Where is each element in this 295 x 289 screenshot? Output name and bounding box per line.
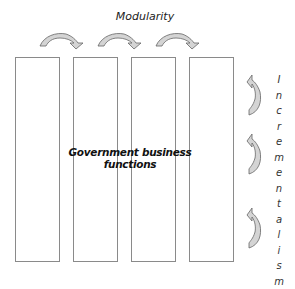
curved-arrow-up-icon xyxy=(247,75,261,115)
letter: m xyxy=(270,150,288,166)
letter: e xyxy=(270,134,288,150)
letter: e xyxy=(270,165,288,181)
letter: I xyxy=(270,72,288,88)
curved-arrow-right-icon xyxy=(156,34,199,50)
letter: r xyxy=(270,119,288,135)
letter: n xyxy=(270,181,288,197)
curved-arrow-right-icon xyxy=(40,34,83,50)
curved-arrow-up-icon xyxy=(247,134,261,174)
letter: n xyxy=(270,88,288,104)
letter: m xyxy=(270,274,288,289)
letter: i xyxy=(270,243,288,259)
curved-arrow-up-icon xyxy=(247,208,261,248)
letter: t xyxy=(270,196,288,212)
letter: c xyxy=(270,103,288,119)
curved-arrow-right-icon xyxy=(98,34,141,50)
letter: a xyxy=(270,212,288,228)
incrementalism-label: I n c r e m e n t a l i s m xyxy=(270,72,288,289)
letter: l xyxy=(270,227,288,243)
letter: s xyxy=(270,258,288,274)
